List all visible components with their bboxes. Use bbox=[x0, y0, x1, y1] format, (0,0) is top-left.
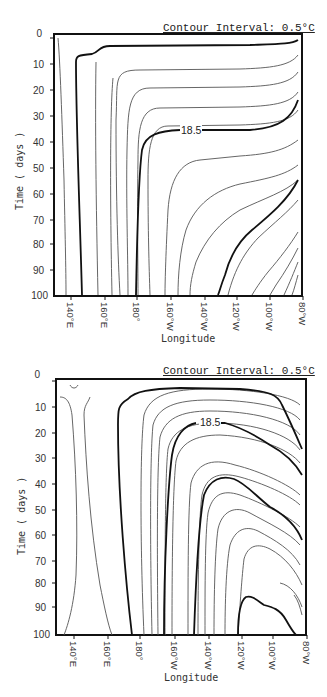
x-tick-label: 180° bbox=[131, 302, 142, 322]
x-tick-label: 140°E bbox=[68, 641, 79, 667]
contour-label-18-5: 18.5 bbox=[180, 125, 202, 136]
y-tick-label: 20 bbox=[20, 85, 44, 96]
y-tick-label: 100 bbox=[24, 290, 48, 301]
x-tick-label: 160°E bbox=[99, 302, 110, 328]
x-tick-label: 100°W bbox=[267, 641, 278, 670]
x-tick-label: 80°W bbox=[301, 641, 312, 664]
y-tick-label: 10 bbox=[22, 402, 46, 413]
top-contour-plot bbox=[0, 0, 327, 345]
x-axis-label: Longitude bbox=[161, 333, 215, 344]
x-tick-label: 80°W bbox=[297, 302, 308, 325]
y-tick-label: 100 bbox=[26, 629, 50, 640]
x-tick-label: 160°E bbox=[102, 641, 113, 667]
x-axis-label: Longitude bbox=[164, 672, 218, 683]
bottom-contour-panel: Contour Interval: 0.5°C bbox=[0, 345, 327, 697]
y-tick-label: 80 bbox=[20, 239, 44, 250]
contour-label-18-5: 18.5 bbox=[199, 417, 221, 428]
y-tick-label: 30 bbox=[22, 453, 46, 464]
x-tick-label: 140°E bbox=[65, 302, 76, 328]
x-tick-label: 120°W bbox=[236, 641, 247, 670]
top-contour-panel: Contour Interval: 0.5°C bbox=[0, 0, 327, 345]
x-tick-label: 140°W bbox=[199, 302, 210, 331]
y-axis-label: Time ( days ) bbox=[14, 132, 25, 210]
y-tick-label: 30 bbox=[20, 111, 44, 122]
x-tick-label: 140°W bbox=[203, 641, 214, 670]
y-tick-label: 90 bbox=[20, 265, 44, 276]
y-axis-label: Time ( days ) bbox=[16, 477, 27, 555]
y-tick-label: 90 bbox=[22, 602, 46, 613]
y-tick-label: 70 bbox=[20, 215, 44, 226]
x-tick-label: 160°W bbox=[169, 641, 180, 670]
y-tick-label: 10 bbox=[20, 59, 44, 70]
x-tick-label: 100°W bbox=[264, 302, 275, 331]
y-tick-label: 0 bbox=[16, 369, 40, 380]
x-tick-label: 120°W bbox=[231, 302, 242, 331]
y-tick-label: 0 bbox=[18, 28, 42, 39]
x-tick-label: 180° bbox=[134, 641, 145, 661]
y-tick-label: 80 bbox=[22, 578, 46, 589]
x-tick-label: 160°W bbox=[165, 302, 176, 331]
y-tick-label: 20 bbox=[22, 428, 46, 439]
y-tick-label: 70 bbox=[22, 556, 46, 567]
